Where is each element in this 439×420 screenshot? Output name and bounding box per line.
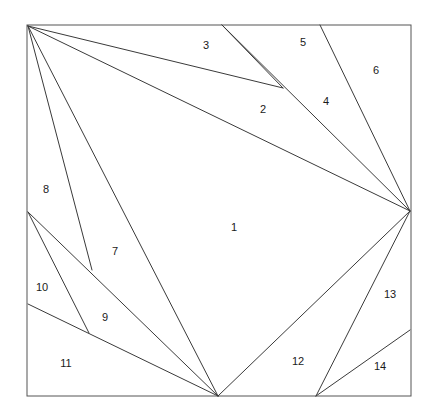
region-label-14: 14 — [374, 360, 386, 372]
region-label-8: 8 — [43, 183, 49, 195]
region-label-1: 1 — [231, 221, 237, 233]
region-label-5: 5 — [300, 36, 306, 48]
region-label-9: 9 — [102, 311, 108, 323]
region-label-6: 6 — [373, 64, 379, 76]
polygon-partition-diagram: 1234567891011121314 — [0, 0, 439, 420]
outer-rectangle — [27, 25, 411, 396]
figure-root: 1234567891011121314 — [0, 0, 439, 420]
region-label-2: 2 — [260, 103, 266, 115]
region-label-4: 4 — [323, 95, 329, 107]
region-label-13: 13 — [384, 288, 396, 300]
region-label-11: 11 — [60, 357, 71, 369]
region-label-10: 10 — [36, 281, 48, 293]
outer-rectangle — [27, 25, 411, 396]
region-label-12: 12 — [292, 355, 304, 367]
region-label-3: 3 — [203, 39, 209, 51]
region-label-7: 7 — [112, 245, 118, 257]
